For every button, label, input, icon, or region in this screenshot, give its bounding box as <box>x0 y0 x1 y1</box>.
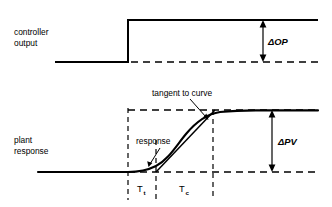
tc-subscript-label: c <box>186 189 190 196</box>
delta-op-measure <box>260 20 267 62</box>
delta-op-arrowhead-down-icon <box>260 55 267 63</box>
diagram-canvas: ΔOP controller output ΔPV <box>0 0 332 207</box>
tt-base-label: T <box>137 183 143 194</box>
delta-pv-label: ΔPV <box>277 136 298 147</box>
tc-base-label: T <box>179 183 185 194</box>
response-callout-label: response <box>136 136 171 146</box>
tangent-to-curve-label: tangent to curve <box>152 88 212 98</box>
plant-response-label-line2: response <box>14 146 49 156</box>
controller-output-panel: ΔOP controller output <box>14 20 318 62</box>
delta-op-label: ΔOP <box>267 36 289 47</box>
delta-op-arrowhead-up-icon <box>260 20 267 28</box>
controller-output-label-line1: controller <box>14 27 49 37</box>
delta-pv-measure <box>269 110 276 172</box>
time-label-tt: T t <box>137 183 146 196</box>
response-callout-leader-line <box>150 148 160 164</box>
tangent-to-curve-leader-line <box>190 99 206 117</box>
tt-subscript-label: t <box>144 189 146 196</box>
plant-response-panel: ΔPV tangent to curve response T t T c pl… <box>14 88 318 200</box>
plant-response-label-line1: plant <box>14 135 33 145</box>
process-reaction-curve-figure: ΔOP controller output ΔPV <box>0 0 332 207</box>
controller-output-label-line2: output <box>14 38 38 48</box>
plant-response-curve <box>38 110 318 172</box>
delta-pv-arrowhead-down-icon <box>269 165 276 173</box>
time-label-tc: T c <box>179 183 190 196</box>
